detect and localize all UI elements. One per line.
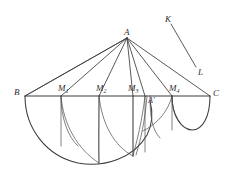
label-C: C [213,89,219,98]
segment-KL-group [171,24,196,67]
label-M1: M1 [58,84,69,93]
geometry-figure: A K L B C M1 M2 M3 M4 A′ [0,0,232,181]
label-L: L [198,68,203,77]
inner-arc-M4b [172,96,189,130]
upper-boundary-group [25,38,127,96]
arc-group-right [172,96,210,130]
label-K: K [165,15,171,24]
fan-rays-from-A [25,38,210,96]
inner-arc-M3b [99,96,133,156]
label-M3: M3 [128,84,139,93]
semicircle-M4-C-arc [172,96,210,130]
label-M4: M4 [169,84,180,93]
label-A: A [124,28,130,37]
inner-arc-M2b [61,96,99,163]
label-M2: M2 [96,84,107,93]
inner-arcs-group [61,96,189,163]
inner-arc-Aprime-b [136,96,147,155]
inner-arc-M1 [61,96,78,146]
label-A-prime: A′ [148,97,155,105]
ray-A-to-M1 [61,38,127,96]
label-B: B [14,88,20,97]
figure-canvas [0,0,232,181]
segment-K-to-L [171,24,196,67]
vertical-drops-group [61,96,172,163]
upper-boundary-B-to-A [25,38,127,96]
